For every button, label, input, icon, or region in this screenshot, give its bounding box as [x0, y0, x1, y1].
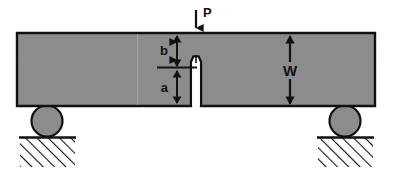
diagram-canvas: P b a W — [0, 0, 394, 174]
load-label: P — [203, 5, 212, 20]
a-label: a — [161, 80, 169, 95]
w-label: W — [283, 62, 298, 79]
right-support-roller — [330, 106, 361, 137]
right-ground-hatch — [317, 138, 374, 168]
left-ground-hatch — [19, 138, 76, 168]
bend-specimen-diagram: P b a W — [0, 0, 394, 174]
b-label: b — [160, 43, 168, 58]
left-support-roller — [32, 106, 63, 137]
notch-slot — [192, 55, 200, 106]
